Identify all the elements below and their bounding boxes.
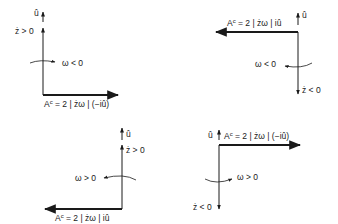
coriolis-force-label: Ac = 2 | żω | iû — [227, 18, 281, 28]
panel-bottom-left — [45, 128, 136, 209]
u-hat-label: û — [208, 131, 213, 140]
u-hat-label: û — [302, 11, 307, 20]
rotation-arrow — [104, 176, 136, 180]
omega-condition-label: ω < 0 — [255, 60, 276, 69]
panel-bottom-right — [205, 130, 300, 209]
zdot-condition-label: ż < 0 — [193, 203, 212, 212]
coriolis-force-label: Ac = 2 | żω | (−iû) — [44, 99, 109, 109]
coriolis-force-label: Ac = 2 | żω | (−iû) — [224, 131, 289, 141]
omega-condition-label: ω > 0 — [237, 173, 258, 182]
coriolis-diagram — [0, 0, 338, 224]
zdot-condition-label: ż > 0 — [15, 27, 34, 36]
omega-condition-label: ω > 0 — [75, 174, 96, 183]
coriolis-force-label: Ac = 2 | żω | iû — [55, 213, 109, 223]
panel-top-left — [30, 12, 118, 95]
u-hat-label: û — [34, 9, 39, 18]
u-hat-label: û — [126, 130, 131, 139]
zdot-condition-label: ż < 0 — [302, 86, 321, 95]
omega-condition-label: ω < 0 — [62, 59, 83, 68]
zdot-condition-label: ż > 0 — [126, 146, 145, 155]
